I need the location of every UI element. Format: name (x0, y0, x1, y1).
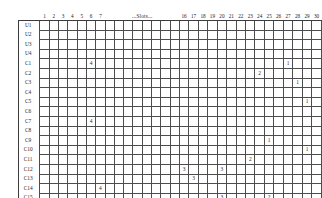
grid-cell-C1-30[interactable] (312, 59, 322, 69)
grid-cell-C12-3[interactable] (58, 164, 67, 174)
grid-cell-C7-16[interactable] (179, 116, 188, 126)
grid-cell-C15-12[interactable] (142, 193, 151, 198)
grid-cell-C7-7[interactable] (96, 116, 105, 126)
grid-cell-C14-22[interactable] (236, 184, 245, 194)
grid-cell-C4-14[interactable] (161, 88, 170, 98)
grid-cell-U4-17[interactable] (189, 49, 198, 59)
grid-cell-C13-13[interactable] (152, 174, 161, 184)
grid-cell-U2-16[interactable] (179, 30, 188, 40)
grid-cell-C2-16[interactable] (179, 68, 188, 78)
grid-cell-C7-27[interactable] (283, 116, 292, 126)
grid-cell-C10-28[interactable] (293, 145, 302, 155)
grid-cell-C15-5[interactable] (77, 193, 86, 198)
grid-cell-C8-22[interactable] (236, 126, 245, 136)
grid-cell-U2-3[interactable] (58, 30, 67, 40)
grid-cell-C8-10[interactable] (124, 126, 133, 136)
grid-cell-C6-18[interactable] (198, 107, 207, 117)
grid-cell-C3-30[interactable] (312, 78, 322, 88)
grid-cell-C15-30[interactable] (312, 193, 322, 198)
grid-cell-C8-25[interactable] (264, 126, 273, 136)
grid-cell-C4-6[interactable] (86, 88, 95, 98)
grid-cell-C7-11[interactable] (133, 116, 142, 126)
grid-cell-C5-17[interactable] (189, 97, 198, 107)
grid-cell-C9-25[interactable]: 1 (264, 136, 273, 146)
grid-cell-C2-17[interactable] (189, 68, 198, 78)
grid-cell-U3-25[interactable] (264, 40, 273, 50)
grid-cell-U4-29[interactable] (302, 49, 311, 59)
grid-cell-C15-10[interactable] (124, 193, 133, 198)
grid-cell-C8-14[interactable] (161, 126, 170, 136)
grid-cell-U2-24[interactable] (255, 30, 264, 40)
grid-cell-C10-9[interactable] (114, 145, 123, 155)
grid-cell-U3-6[interactable] (86, 40, 95, 50)
grid-cell-C3-27[interactable] (283, 78, 292, 88)
grid-cell-C3-20[interactable] (217, 78, 226, 88)
grid-cell-C1-9[interactable] (114, 59, 123, 69)
grid-cell-C11-23[interactable]: 2 (246, 155, 255, 165)
grid-cell-C9-19[interactable] (208, 136, 217, 146)
grid-cell-C1-25[interactable] (264, 59, 273, 69)
grid-cell-U1-2[interactable] (49, 21, 58, 31)
grid-cell-C10-5[interactable] (77, 145, 86, 155)
grid-cell-U2-7[interactable] (96, 30, 105, 40)
grid-cell-C7-5[interactable] (77, 116, 86, 126)
grid-cell-C12-29[interactable] (302, 164, 311, 174)
grid-cell-C11-22[interactable] (236, 155, 245, 165)
grid-cell-C12-27[interactable] (283, 164, 292, 174)
grid-cell-C13-7[interactable] (96, 174, 105, 184)
grid-cell-U3-20[interactable] (217, 40, 226, 50)
grid-cell-U2-20[interactable] (217, 30, 226, 40)
grid-cell-C1-14[interactable] (161, 59, 170, 69)
grid-cell-C6-20[interactable] (217, 107, 226, 117)
grid-cell-U4-25[interactable] (264, 49, 273, 59)
grid-cell-C14-2[interactable] (49, 184, 58, 194)
grid-cell-C13-18[interactable] (198, 174, 207, 184)
grid-cell-C13-1[interactable] (40, 174, 49, 184)
grid-cell-C3-15[interactable] (170, 78, 179, 88)
grid-cell-C11-16[interactable] (179, 155, 188, 165)
grid-cell-C13-22[interactable] (236, 174, 245, 184)
grid-cell-C1-18[interactable] (198, 59, 207, 69)
grid-cell-C2-19[interactable] (208, 68, 217, 78)
grid-cell-C7-22[interactable] (236, 116, 245, 126)
grid-cell-C8-1[interactable] (40, 126, 49, 136)
grid-cell-U4-8[interactable] (105, 49, 114, 59)
grid-cell-C11-2[interactable] (49, 155, 58, 165)
grid-cell-C10-12[interactable] (142, 145, 151, 155)
grid-cell-C4-13[interactable] (152, 88, 161, 98)
grid-cell-C1-21[interactable] (227, 59, 236, 69)
grid-cell-C11-28[interactable] (293, 155, 302, 165)
grid-cell-C6-10[interactable] (124, 107, 133, 117)
grid-cell-C12-10[interactable] (124, 164, 133, 174)
grid-cell-C14-7[interactable]: 4 (96, 184, 105, 194)
grid-cell-C15-23[interactable] (246, 193, 255, 198)
grid-cell-C14-15[interactable] (170, 184, 179, 194)
grid-cell-C7-4[interactable] (68, 116, 77, 126)
grid-cell-C6-27[interactable] (283, 107, 292, 117)
grid-cell-C6-24[interactable] (255, 107, 264, 117)
grid-cell-C2-13[interactable] (152, 68, 161, 78)
grid-cell-C9-8[interactable] (105, 136, 114, 146)
grid-cell-C7-30[interactable] (312, 116, 322, 126)
grid-cell-C14-10[interactable] (124, 184, 133, 194)
grid-cell-C14-8[interactable] (105, 184, 114, 194)
grid-cell-C7-18[interactable] (198, 116, 207, 126)
grid-cell-C4-24[interactable] (255, 88, 264, 98)
grid-cell-C13-3[interactable] (58, 174, 67, 184)
grid-cell-C12-26[interactable] (274, 164, 283, 174)
grid-cell-C15-20[interactable]: 3 (217, 193, 226, 198)
grid-cell-U1-29[interactable] (302, 21, 311, 31)
grid-cell-C6-16[interactable] (179, 107, 188, 117)
grid-cell-C9-14[interactable] (161, 136, 170, 146)
grid-cell-C13-24[interactable] (255, 174, 264, 184)
grid-cell-C13-10[interactable] (124, 174, 133, 184)
grid-cell-C12-24[interactable] (255, 164, 264, 174)
grid-cell-C12-8[interactable] (105, 164, 114, 174)
grid-cell-C2-5[interactable] (77, 68, 86, 78)
grid-cell-C5-5[interactable] (77, 97, 86, 107)
grid-cell-C2-20[interactable] (217, 68, 226, 78)
grid-cell-U2-26[interactable] (274, 30, 283, 40)
grid-cell-C3-11[interactable] (133, 78, 142, 88)
grid-cell-U4-10[interactable] (124, 49, 133, 59)
grid-cell-C10-23[interactable] (246, 145, 255, 155)
